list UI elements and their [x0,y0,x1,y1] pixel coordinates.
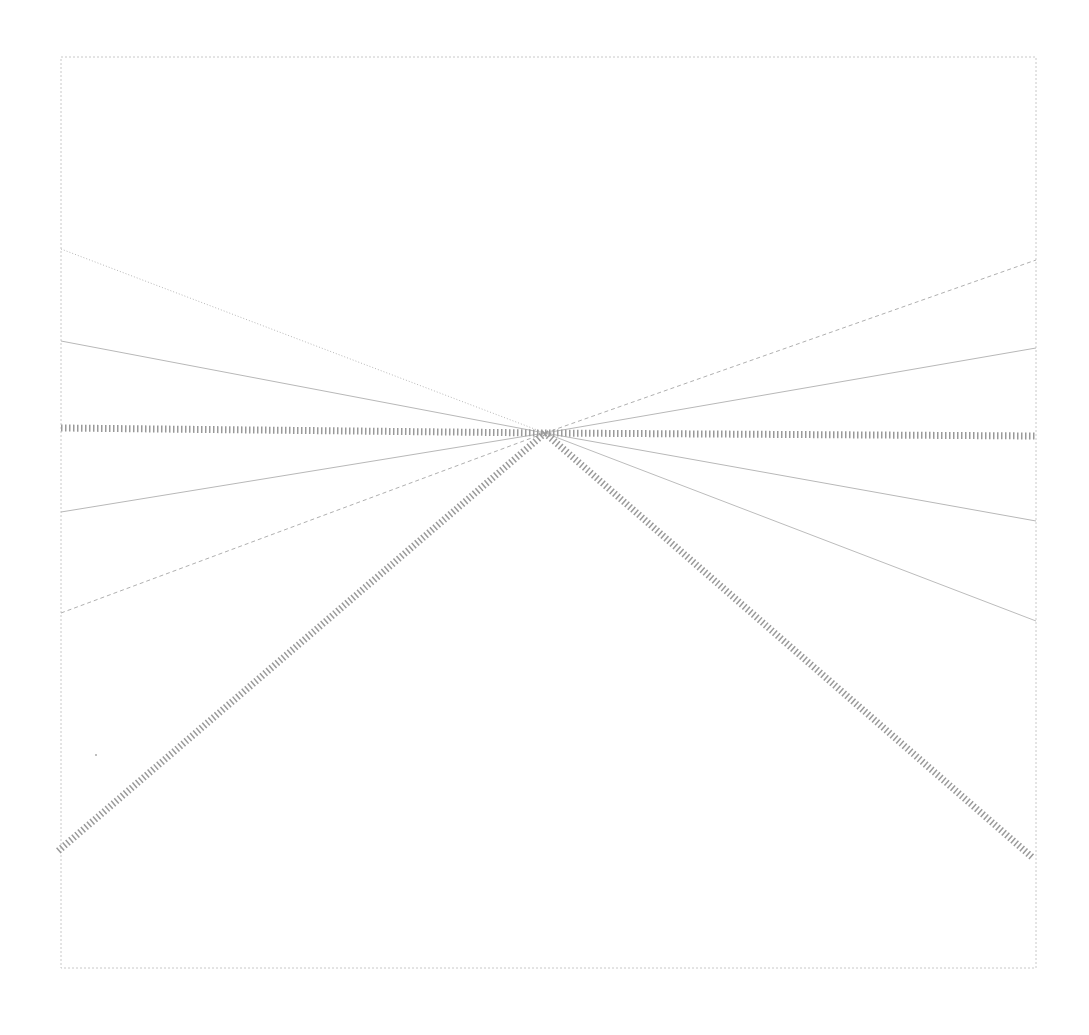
thin-lower-right-shallow-line [545,433,1036,521]
diagram-frame [61,57,1036,968]
thin-lower-left-steep-line [61,433,545,613]
thin-lower-right-steep-line [545,433,1036,621]
speck [95,754,97,756]
radiating-lines-diagram [0,0,1089,1035]
radiating-lines [57,249,1036,858]
thin-upper-right-shallow-line [545,348,1036,433]
thin-lower-left-shallow-line [61,433,545,512]
thin-upper-left-steep-line [61,249,545,433]
thick-diagonal-lower-left-line [57,433,545,852]
thin-upper-left-shallow-line [61,341,545,433]
thick-horizontal-right-line [545,433,1036,436]
specks [95,754,97,756]
thin-upper-right-steep-line [545,260,1036,433]
thick-horizontal-left-line [61,428,545,433]
thick-diagonal-lower-right-line [545,433,1033,858]
